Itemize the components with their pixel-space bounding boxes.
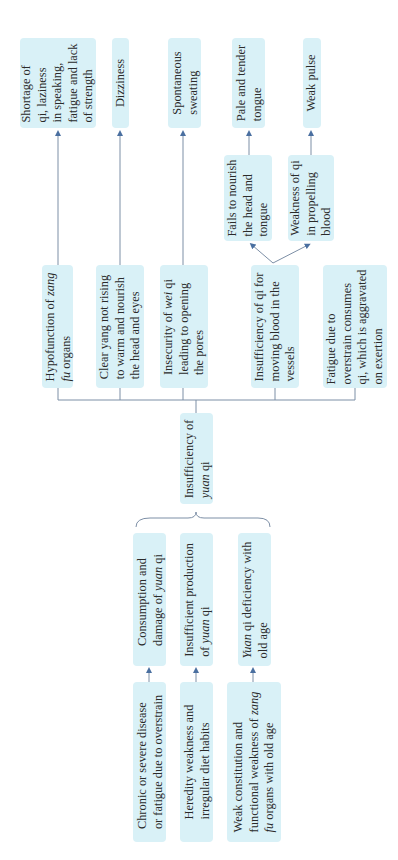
- connector-lines: [0, 0, 398, 860]
